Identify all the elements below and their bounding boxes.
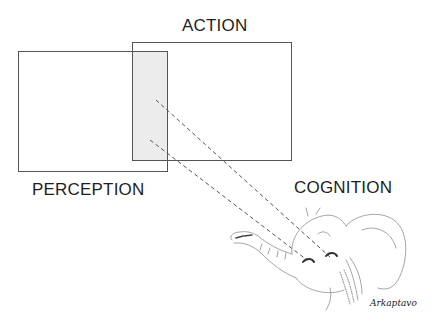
- artist-signature: Arkaptavo: [370, 298, 417, 308]
- sketch-layer: [0, 0, 441, 332]
- elephant-icon: [231, 208, 406, 310]
- connector-line-2: [150, 140, 307, 260]
- dashed-connectors: [150, 100, 330, 260]
- connector-line-1: [156, 100, 330, 257]
- diagram-canvas: ACTION PERCEPTION COGNITION: [0, 0, 441, 332]
